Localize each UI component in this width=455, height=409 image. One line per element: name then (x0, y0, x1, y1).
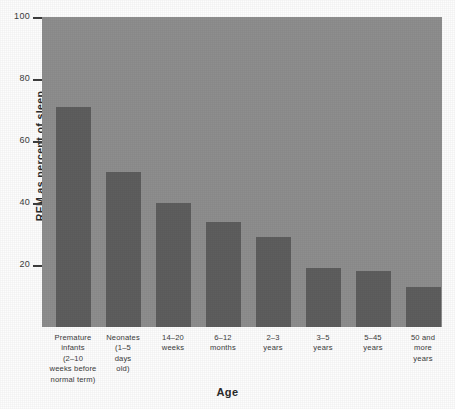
bar (106, 172, 141, 327)
y-axis-tick (33, 265, 42, 267)
bar (356, 271, 391, 327)
bar (156, 203, 191, 327)
bars-container (42, 17, 442, 327)
y-axis-tick-label: 20 (2, 259, 30, 269)
bar (56, 107, 91, 327)
bar (206, 222, 241, 327)
x-axis-tick-label: 5–45years (345, 333, 401, 354)
y-axis-tick (33, 141, 42, 143)
y-axis-tick (33, 79, 42, 81)
x-axis-tick-label: 6–12months (195, 333, 251, 354)
y-axis-tick-label: 60 (2, 135, 30, 145)
y-axis-tick-label: 40 (2, 197, 30, 207)
bar (256, 237, 291, 327)
x-axis-tick-label: 2–3years (245, 333, 301, 354)
plot-area (42, 17, 442, 327)
x-axis-tick-label: 3–5years (295, 333, 351, 354)
x-axis-tick-label: 50 andmoreyears (395, 333, 451, 364)
y-axis-tick (33, 203, 42, 205)
y-axis-tick-label: 80 (2, 73, 30, 83)
x-axis-title: Age (0, 386, 455, 398)
x-axis-tick-label: 14–20weeks (145, 333, 201, 354)
bar (306, 268, 341, 327)
y-axis-tick (33, 17, 42, 19)
bar (406, 287, 441, 327)
chart-figure: REM as percent of sleep Prematureinfants… (0, 0, 455, 409)
y-axis-tick-label: 100 (2, 11, 30, 21)
x-axis-tick-label: Neonates(1–5daysold) (95, 333, 151, 375)
